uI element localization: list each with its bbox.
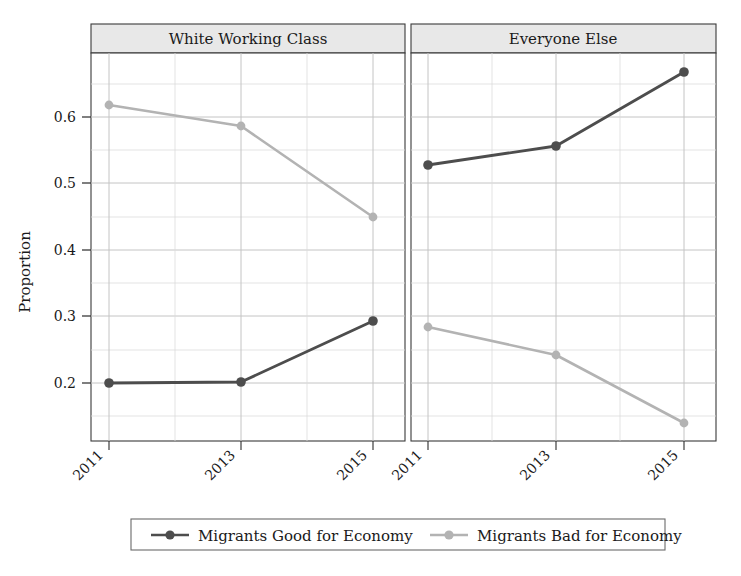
legend-marker-circle-dark [165, 530, 174, 539]
data-point [368, 316, 378, 326]
y-tick-label: 0.5 [54, 175, 76, 191]
panel-everyone-else: Everyone Else [389, 24, 716, 483]
legend-label-migrants-bad: Migrants Bad for Economy [477, 527, 682, 545]
chart-container: Proportion White Working Class [0, 0, 741, 576]
data-point [105, 101, 114, 110]
panel-strip-label-right: Everyone Else [509, 30, 618, 48]
panel-white-working-class: White Working Class [70, 24, 405, 483]
panel-strip-label-left: White Working Class [169, 30, 328, 48]
y-tick-label: 0.2 [54, 375, 76, 391]
data-point [104, 378, 114, 388]
faceted-line-chart: Proportion White Working Class [0, 0, 741, 576]
data-point [679, 67, 689, 77]
y-tick-label: 0.3 [54, 308, 76, 324]
y-tick-label: 0.6 [54, 109, 76, 125]
legend-label-migrants-good: Migrants Good for Economy [198, 527, 413, 545]
chart-legend: Migrants Good for Economy Migrants Bad f… [131, 519, 682, 550]
data-point [236, 377, 246, 387]
data-point [423, 160, 433, 170]
data-point [424, 323, 433, 332]
data-point [552, 351, 561, 360]
legend-marker-circle-light [444, 530, 453, 539]
y-tick-label: 0.4 [54, 242, 76, 258]
data-point [680, 419, 689, 428]
data-point [551, 141, 561, 151]
data-point [237, 122, 246, 131]
data-point [369, 213, 378, 222]
y-axis-title: Proportion [16, 231, 34, 313]
